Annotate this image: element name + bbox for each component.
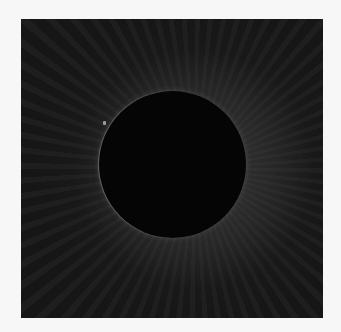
lunar-disk (99, 91, 246, 238)
solar-prominence (103, 121, 106, 125)
eclipse-photo (21, 19, 323, 318)
